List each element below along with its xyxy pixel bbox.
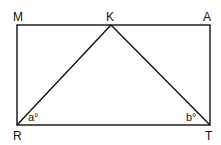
label-T: T: [205, 129, 213, 143]
segment-RK: [17, 25, 111, 125]
rectangle-MATR: [17, 25, 210, 125]
label-R: R: [13, 129, 22, 143]
label-A: A: [203, 10, 211, 24]
angle-b-label: b°: [186, 111, 197, 123]
angle-a-label: a°: [28, 111, 39, 123]
label-M: M: [13, 10, 23, 24]
segment-KT: [111, 25, 210, 125]
geometry-diagram: M K A R T a° b°: [0, 0, 221, 145]
label-K: K: [106, 10, 114, 24]
